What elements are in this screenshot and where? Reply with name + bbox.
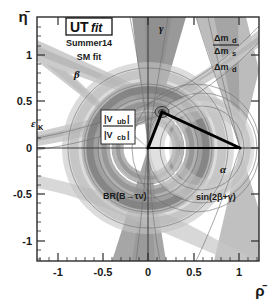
label-vub-num-sub: ub (117, 117, 127, 126)
label-dmd-num: Δm (214, 33, 228, 43)
label-beta: β (73, 68, 80, 80)
label-vub-over-vcb: |V ub | |V cb | (101, 110, 135, 144)
y-tick-label: -0.5 (13, 188, 32, 200)
y-tick-label: 0 (26, 142, 32, 154)
label-vub-num: |V (104, 114, 113, 124)
y-tick-label: 1 (26, 49, 32, 61)
label-delta-md-over-dms: Δm d Δm s (213, 33, 239, 58)
x-tick-label: 1 (236, 266, 242, 278)
label-dmd: Δm (214, 62, 228, 72)
label-vcb-den-sub: cb (117, 133, 126, 142)
label-vub-bar: | (127, 114, 130, 124)
logo-season: Summer14 (66, 38, 112, 48)
label-dmd-num-sub: d (232, 36, 237, 45)
label-sin2beta-plus-gamma: sin(2β+γ) (196, 192, 236, 202)
label-vcb-den: |V (104, 130, 113, 140)
label-br-b-to-taunu: BR(B→τν) (103, 191, 147, 201)
logo-fit-label: SM fit (77, 52, 102, 62)
label-alpha: α (220, 163, 227, 175)
x-tick-label: -1 (53, 266, 63, 278)
logo-brand-main: UT (70, 19, 89, 35)
y-tick-label: 0.5 (17, 95, 32, 107)
x-tick-label: -0.5 (94, 266, 113, 278)
x-tick-label: 0 (145, 266, 151, 278)
label-vcb-bar: | (127, 130, 130, 140)
label-epsilon-k-main: ε (31, 117, 36, 129)
y-tick-label: -1 (22, 235, 32, 247)
label-dms-den: Δm (214, 46, 228, 56)
label-epsilon-k-sub: K (38, 123, 44, 132)
label-dmd-sub: d (232, 65, 237, 74)
x-tick-label: 0.5 (186, 266, 201, 278)
logo-brand-sub: fit (91, 21, 103, 35)
utfit-unitarity-triangle-figure: -1 -0.5 0 0.5 1 1 0.5 0 -0.5 -1 ρ̄ η̄ UT… (0, 0, 278, 306)
label-gamma: γ (159, 22, 164, 34)
label-dms-den-sub: s (232, 49, 236, 58)
